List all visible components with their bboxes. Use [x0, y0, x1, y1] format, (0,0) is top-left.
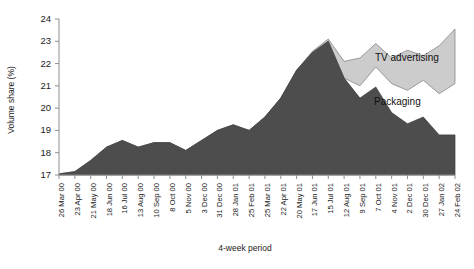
y-axis-tick-label: 23 [40, 35, 51, 46]
series-label-packaging: Packaging [374, 96, 421, 107]
x-axis-tick-label: 22 Apr 01 [279, 183, 288, 216]
y-axis-tick-label: 21 [40, 80, 51, 91]
x-axis-tick-label: 18 Jun 00 [105, 183, 114, 216]
x-axis-tick-label: 8 Oct 00 [168, 183, 177, 212]
y-axis-tick-label: 22 [40, 58, 51, 69]
x-axis-tick-label: 28 Jan 01 [231, 183, 240, 216]
x-axis-tick-label: 10 Sep 00 [152, 183, 161, 218]
x-axis-tick-label: 5 Nov 00 [184, 183, 193, 213]
x-axis-tick-label: 23 Apr 00 [73, 183, 82, 216]
x-axis-tick-label: 17 Jun 01 [310, 183, 319, 216]
x-axis-tick-label: 26 Mar 00 [57, 183, 66, 217]
y-axis-tick-label: 18 [40, 147, 51, 158]
x-axis-tick-label: 9 Sep 01 [358, 183, 367, 213]
x-axis-title: 4-week period [218, 243, 272, 253]
y-axis-title: Volume share (%) [6, 66, 16, 134]
x-axis-tick-label: 7 Oct 01 [374, 183, 383, 212]
x-axis-tick-label: 25 Feb 01 [247, 183, 256, 217]
x-axis-tick-label: 13 Aug 00 [136, 183, 145, 217]
x-axis-tick-label: 27 Jan 02 [437, 183, 446, 216]
x-axis-tick-label: 16 Jul 00 [120, 183, 129, 214]
x-axis-tick-label: 3 Dec 00 [200, 183, 209, 213]
x-axis-ticks [59, 175, 455, 179]
volume-share-area-chart: 1718192021222324 26 Mar 0023 Apr 0021 Ma… [0, 0, 474, 269]
x-axis-tick-label: 31 Dec 00 [215, 183, 224, 218]
x-axis-tick-label: 4 Nov 01 [390, 183, 399, 213]
chart-canvas: 1718192021222324 26 Mar 0023 Apr 0021 Ma… [0, 0, 474, 269]
x-axis-tick-label: 15 Jul 01 [326, 183, 335, 214]
series-label-tv-advertising: TV advertising [375, 52, 439, 63]
x-axis-tick-labels: 26 Mar 0023 Apr 0021 May 0018 Jun 0016 J… [57, 183, 462, 218]
x-axis-tick-label: 20 May 01 [295, 183, 304, 218]
x-axis-tick-label: 25 Mar 01 [263, 183, 272, 217]
y-axis-tick-label: 19 [40, 124, 51, 135]
y-axis-tick-label: 20 [40, 102, 51, 113]
y-axis-tick-label: 24 [40, 13, 51, 24]
x-axis-tick-label: 30 Dec 01 [421, 183, 430, 218]
x-axis-tick-label: 24 Feb 02 [453, 183, 462, 217]
x-axis-tick-label: 12 Aug 01 [342, 183, 351, 217]
x-axis-tick-label: 2 Dec 01 [405, 183, 414, 213]
y-axis-tick-labels: 1718192021222324 [40, 13, 51, 180]
y-axis-ticks [55, 19, 59, 175]
y-axis-tick-label: 17 [40, 169, 51, 180]
x-axis-tick-label: 21 May 00 [89, 183, 98, 218]
